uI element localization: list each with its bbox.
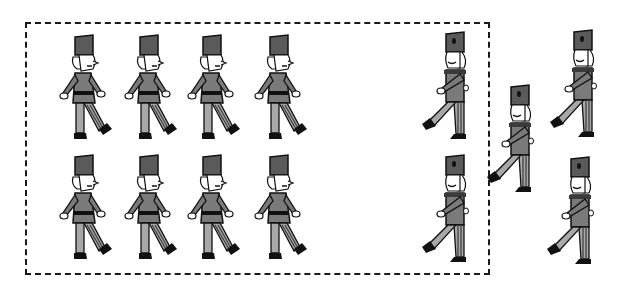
toy-soldier-right-in-box <box>252 33 312 145</box>
toy-soldier-left-outside-box <box>485 83 545 195</box>
toy-soldier-right-in-box <box>57 33 117 145</box>
toy-soldier-right-in-box <box>185 33 245 145</box>
toy-soldier-left-in-box <box>420 30 480 142</box>
toy-soldier-right-in-box <box>185 153 245 265</box>
toy-soldier-right-in-box <box>57 153 117 265</box>
toy-soldier-left-outside-box <box>545 155 605 267</box>
toy-soldier-left-in-box <box>420 153 480 265</box>
toy-soldier-right-in-box <box>122 153 182 265</box>
toy-soldier-right-in-box <box>122 33 182 145</box>
toy-soldier-left-outside-box <box>548 28 608 140</box>
toy-soldier-right-in-box <box>252 153 312 265</box>
